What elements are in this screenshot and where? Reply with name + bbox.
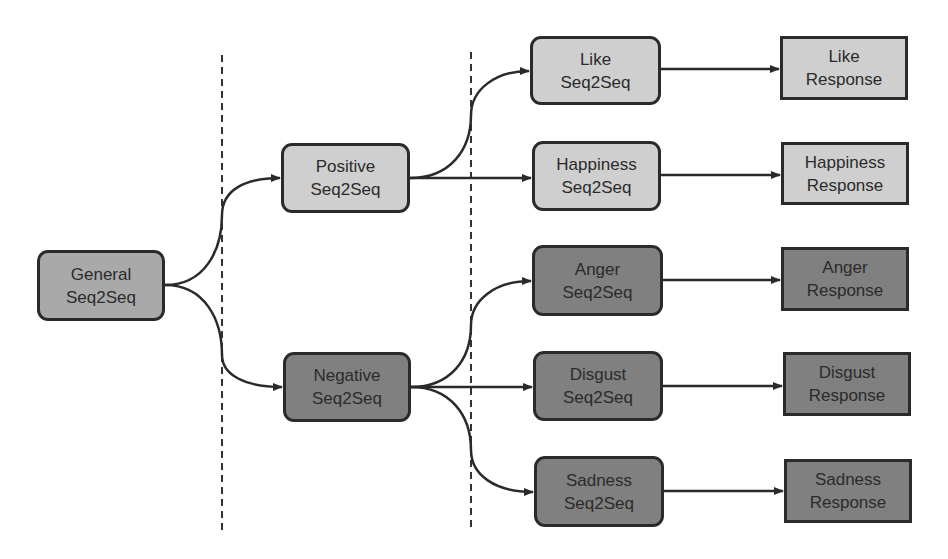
node-label-line2: Response xyxy=(807,279,884,302)
node-label-line1: Like xyxy=(828,45,859,68)
edge-positive-like xyxy=(410,71,529,178)
node-label-line1: Disgust xyxy=(819,361,876,384)
node-label-line1: Disgust xyxy=(570,363,627,386)
node-happiness-response: Happiness Response xyxy=(781,142,909,205)
node-label-line1: Happiness xyxy=(556,153,636,176)
node-label-line2: Seq2Seq xyxy=(312,387,382,410)
node-label-line1: General xyxy=(71,263,131,286)
node-label-line2: Seq2Seq xyxy=(311,178,381,201)
node-label-line1: Sadness xyxy=(815,468,881,491)
node-happiness-seq2seq: Happiness Seq2Seq xyxy=(532,141,661,211)
node-negative-seq2seq: Negative Seq2Seq xyxy=(283,352,411,422)
node-general-seq2seq: General Seq2Seq xyxy=(37,250,165,321)
node-label-line2: Seq2Seq xyxy=(66,286,136,309)
edge-general-negative xyxy=(165,285,282,387)
node-anger-response: Anger Response xyxy=(781,247,909,311)
node-label-line1: Sadness xyxy=(566,469,632,492)
node-label-line2: Response xyxy=(806,68,883,91)
edge-general-positive xyxy=(165,178,280,285)
node-disgust-response: Disgust Response xyxy=(783,352,911,416)
node-disgust-seq2seq: Disgust Seq2Seq xyxy=(533,351,663,421)
node-like-seq2seq: Like Seq2Seq xyxy=(530,36,661,105)
node-label-line2: Response xyxy=(809,384,886,407)
node-label-line2: Response xyxy=(807,174,884,197)
node-label-line2: Seq2Seq xyxy=(563,281,633,304)
node-label-line1: Negative xyxy=(313,364,380,387)
node-label-line2: Seq2Seq xyxy=(562,176,632,199)
node-label-line1: Anger xyxy=(575,258,620,281)
node-sadness-response: Sadness Response xyxy=(784,459,912,523)
node-label-line2: Seq2Seq xyxy=(563,386,633,409)
node-label-line1: Happiness xyxy=(805,151,885,174)
node-positive-seq2seq: Positive Seq2Seq xyxy=(281,143,410,213)
node-label-line2: Response xyxy=(810,491,887,514)
node-label-line1: Positive xyxy=(316,155,376,178)
node-label-line2: Seq2Seq xyxy=(561,71,631,94)
node-label-line1: Anger xyxy=(822,256,867,279)
hierarchical-seq2seq-diagram: General Seq2Seq Positive Seq2Seq Negativ… xyxy=(0,0,948,559)
node-label-line1: Like xyxy=(580,48,611,71)
node-sadness-seq2seq: Sadness Seq2Seq xyxy=(534,456,664,527)
node-anger-seq2seq: Anger Seq2Seq xyxy=(532,245,663,316)
node-like-response: Like Response xyxy=(780,36,908,100)
node-label-line2: Seq2Seq xyxy=(564,492,634,515)
